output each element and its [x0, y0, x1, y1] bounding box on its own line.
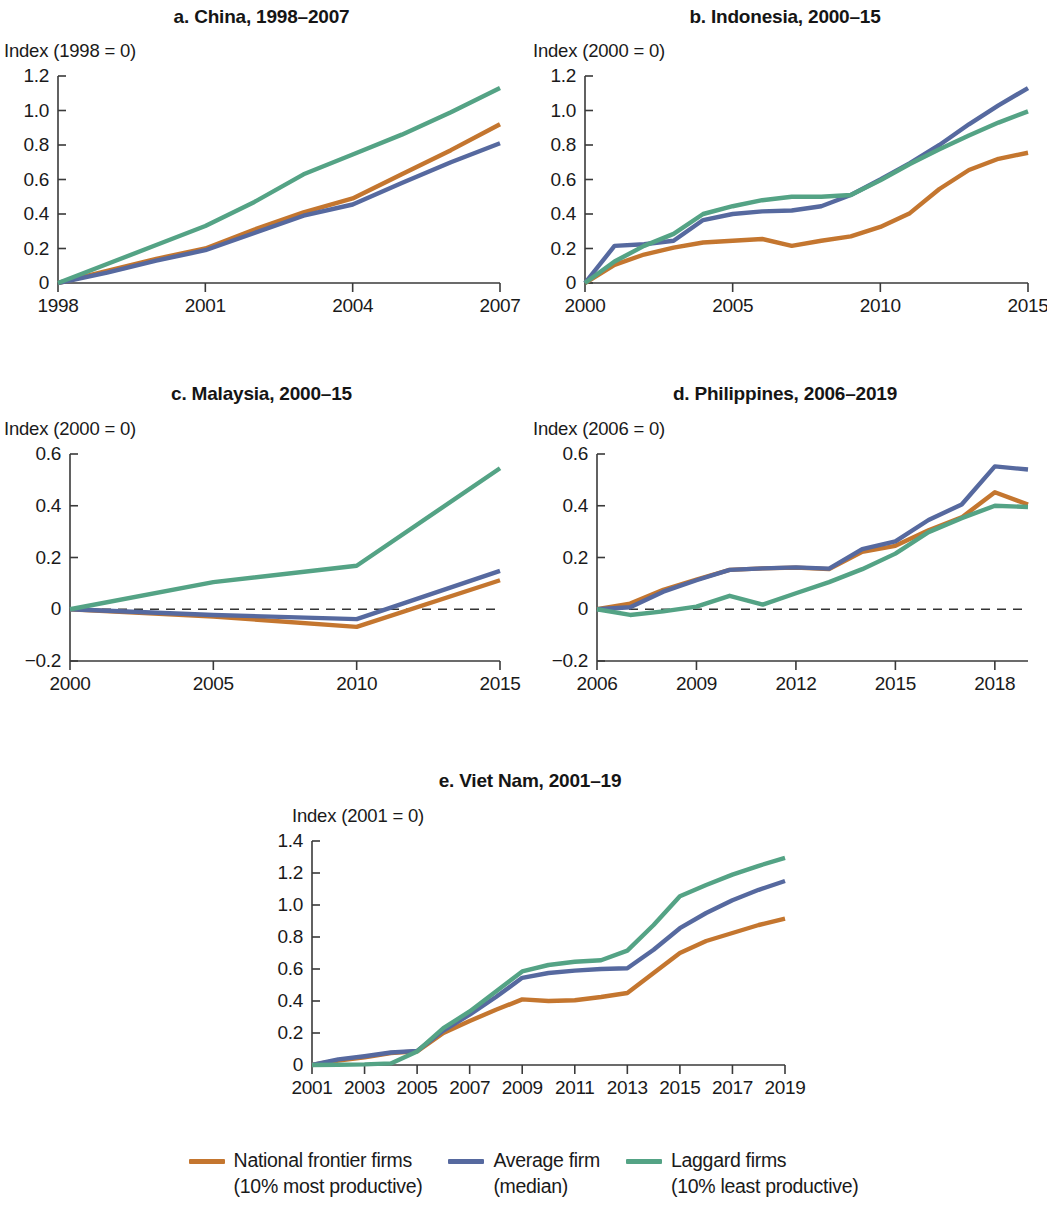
chart-legend: National frontier firms (10% most produc… [0, 1148, 1047, 1200]
y-axis-label-china: Index (1998 = 0) [4, 40, 523, 62]
x-tick-label: 2007 [479, 295, 520, 316]
y-tick-label: 1.0 [550, 100, 576, 121]
x-tick-label: 2003 [344, 1077, 385, 1098]
y-tick-label: 1.4 [277, 830, 303, 851]
x-tick-label: 2001 [185, 295, 226, 316]
x-tick-label: 2001 [291, 1077, 332, 1098]
y-tick-label: 0.8 [23, 134, 49, 155]
x-tick-label: 2009 [676, 673, 717, 694]
panel-vietnam: e. Viet Nam, 2001–19 Index (2001 = 0) 00… [240, 770, 820, 1108]
y-tick-label: 0 [578, 598, 588, 619]
x-tick-label: 2000 [49, 673, 90, 694]
y-tick-label: 0 [51, 598, 61, 619]
y-tick-label: 0 [39, 272, 49, 293]
y-tick-label: 0.2 [23, 238, 49, 259]
x-tick-label: 2017 [712, 1077, 753, 1098]
y-tick-label: 0.4 [35, 495, 61, 516]
x-tick-label: 2000 [564, 295, 605, 316]
series-line-laggard [312, 858, 785, 1065]
series-line-frontier [312, 919, 785, 1065]
y-tick-label: 0.6 [277, 958, 303, 979]
panel-title-malaysia: c. Malaysia, 2000–15 [0, 383, 523, 405]
legend-label-frontier-line1: National frontier firms [234, 1149, 412, 1171]
x-tick-label: 2015 [659, 1077, 700, 1098]
panel-title-indonesia: b. Indonesia, 2000–15 [523, 6, 1047, 28]
chart-svg-vietnam: 00.20.40.60.81.01.21.4200120032005200720… [240, 833, 820, 1108]
y-tick-label: −0.2 [25, 650, 61, 671]
y-tick-label: 0.8 [277, 926, 303, 947]
x-tick-label: 2010 [860, 295, 901, 316]
legend-item-laggard: Laggard firms (10% least productive) [626, 1148, 858, 1200]
series-line-laggard [58, 88, 500, 283]
chart-svg-philippines: −0.200.20.40.620062009201220152018 [523, 446, 1047, 701]
y-tick-label: 0.4 [277, 990, 303, 1011]
panel-philippines: d. Philippines, 2006–2019 Index (2006 = … [523, 383, 1047, 701]
y-tick-label: 1.2 [550, 65, 576, 86]
x-tick-label: 2015 [479, 673, 520, 694]
x-tick-label: 2018 [974, 673, 1015, 694]
y-tick-label: 1.0 [277, 894, 303, 915]
y-axis-label-philippines: Index (2006 = 0) [533, 418, 1047, 440]
plot-area-indonesia: 00.20.40.60.81.01.22000200520102015 [523, 68, 1047, 323]
y-tick-label: 0.2 [550, 238, 576, 259]
legend-swatch-average [448, 1159, 484, 1164]
series-line-frontier [585, 153, 1028, 283]
chart-svg-china: 00.20.40.60.81.01.21998200120042007 [0, 68, 523, 323]
x-tick-label: 2007 [449, 1077, 490, 1098]
panel-title-philippines: d. Philippines, 2006–2019 [523, 383, 1047, 405]
x-tick-label: 1998 [37, 295, 78, 316]
x-tick-label: 2005 [397, 1077, 438, 1098]
legend-label-frontier-line2: (10% most productive) [234, 1174, 423, 1200]
x-tick-label: 2004 [332, 295, 374, 316]
series-line-average [312, 881, 785, 1065]
legend-label-average-line1: Average firm [493, 1149, 600, 1171]
series-line-average [58, 143, 500, 283]
legend-label-frontier: National frontier firms (10% most produc… [234, 1148, 423, 1200]
chart-svg-malaysia: −0.200.20.40.62000200520102015 [0, 446, 523, 701]
panel-title-china: a. China, 1998–2007 [0, 6, 523, 28]
panel-indonesia: b. Indonesia, 2000–15 Index (2000 = 0) 0… [523, 0, 1047, 323]
y-tick-label: 1.2 [23, 65, 49, 86]
x-tick-label: 2015 [1007, 295, 1047, 316]
legend-label-laggard-line1: Laggard firms [671, 1149, 786, 1171]
legend-swatch-laggard [626, 1159, 662, 1164]
series-line-frontier [70, 580, 500, 627]
legend-label-average-line2: (median) [493, 1174, 600, 1200]
y-axis-label-malaysia: Index (2000 = 0) [4, 418, 523, 440]
plot-area-china: 00.20.40.60.81.01.21998200120042007 [0, 68, 523, 323]
y-tick-label: 0.4 [550, 203, 576, 224]
y-tick-label: 0.4 [562, 495, 588, 516]
x-tick-label: 2013 [607, 1077, 648, 1098]
legend-label-laggard: Laggard firms (10% least productive) [671, 1148, 858, 1200]
legend-label-average: Average firm (median) [493, 1148, 600, 1200]
series-line-laggard [597, 506, 1028, 615]
y-tick-label: 0 [293, 1054, 303, 1075]
x-tick-label: 2010 [336, 673, 377, 694]
x-tick-label: 2006 [576, 673, 617, 694]
y-tick-label: 0.4 [23, 203, 49, 224]
y-axis-label-vietnam: Index (2001 = 0) [292, 805, 820, 827]
y-tick-label: 0.2 [277, 1022, 303, 1043]
y-tick-label: 0.6 [550, 169, 576, 190]
legend-label-laggard-line2: (10% least productive) [671, 1174, 858, 1200]
y-tick-label: −0.2 [552, 650, 588, 671]
x-tick-label: 2012 [775, 673, 816, 694]
panel-title-vietnam: e. Viet Nam, 2001–19 [240, 770, 820, 792]
y-tick-label: 0.8 [550, 134, 576, 155]
legend-item-frontier: National frontier firms (10% most produc… [189, 1148, 423, 1200]
legend-swatch-frontier [189, 1159, 225, 1164]
y-tick-label: 0.6 [23, 169, 49, 190]
y-tick-label: 0.2 [562, 547, 588, 568]
figure-root: a. China, 1998–2007 Index (1998 = 0) 00.… [0, 0, 1047, 1211]
panel-malaysia: c. Malaysia, 2000–15 Index (2000 = 0) −0… [0, 383, 523, 701]
y-tick-label: 0.6 [35, 443, 61, 464]
x-tick-label: 2019 [764, 1077, 805, 1098]
y-tick-label: 1.0 [23, 100, 49, 121]
plot-area-vietnam: 00.20.40.60.81.01.21.4200120032005200720… [240, 833, 820, 1108]
y-tick-label: 0.2 [35, 547, 61, 568]
x-tick-label: 2005 [193, 673, 234, 694]
legend-item-average: Average firm (median) [448, 1148, 600, 1200]
y-axis-label-indonesia: Index (2000 = 0) [533, 40, 1047, 62]
x-tick-label: 2009 [502, 1077, 543, 1098]
plot-area-malaysia: −0.200.20.40.62000200520102015 [0, 446, 523, 701]
